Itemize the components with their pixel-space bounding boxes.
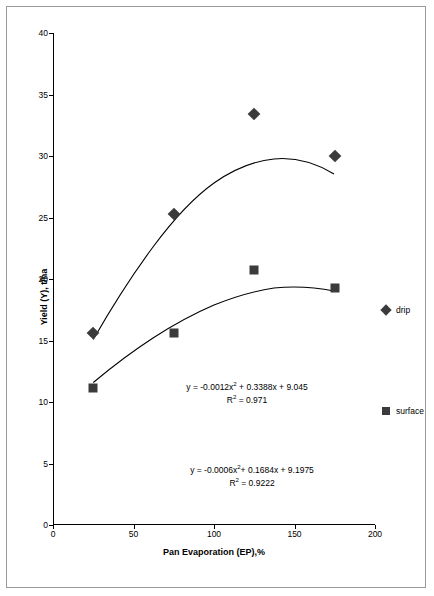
chart-page: Yield (Y), t/ha Pan Evaporation (EP),% 0… [0, 0, 434, 596]
plot-area: 0 5 10 15 20 25 30 35 40 0 50 100 15 [53, 33, 375, 525]
y-tick-label-40: 40 [39, 28, 48, 38]
y-tick-label-10: 10 [39, 397, 48, 407]
y-tick-label-20: 20 [39, 274, 48, 284]
data-point-surface-2 [169, 329, 178, 338]
drip-equation-annotation: y = -0.0012x2 + 0.3388x + 9.045 R2 = 0.9… [186, 380, 307, 406]
y-tick-label-0: 0 [43, 520, 48, 530]
data-point-surface-4 [330, 283, 339, 292]
legend-item-surface: surface [382, 406, 424, 416]
x-tick-label-100: 100 [207, 529, 221, 539]
x-tick-label-50: 50 [129, 529, 138, 539]
x-tick-label-200: 200 [368, 529, 382, 539]
drip-equation-text: y = -0.0012x2 + 0.3388x + 9.045 [186, 382, 307, 392]
data-point-surface-1 [89, 384, 98, 393]
y-tick-label-35: 35 [39, 90, 48, 100]
y-tick-label-5: 5 [43, 459, 48, 469]
y-tick-label-15: 15 [39, 336, 48, 346]
y-tick-label-25: 25 [39, 213, 48, 223]
surface-r2-text: R2 = 0.9222 [190, 476, 314, 489]
surface-trendline [93, 287, 334, 383]
square-marker-icon [382, 407, 390, 415]
drip-trendline [93, 159, 334, 340]
diamond-marker-icon [380, 304, 391, 315]
x-tick-label-0: 0 [51, 529, 56, 539]
legend-label-surface: surface [396, 406, 424, 416]
data-point-surface-3 [250, 266, 259, 275]
x-tick-label-150: 150 [287, 529, 301, 539]
drip-r2-text: R2 = 0.971 [186, 393, 307, 406]
surface-equation-text: y = -0.0006x2+ 0.1684x + 9.1975 [190, 465, 314, 475]
surface-equation-annotation: y = -0.0006x2+ 0.1684x + 9.1975 R2 = 0.9… [190, 463, 314, 489]
trend-curves [53, 33, 375, 525]
y-tick-label-30: 30 [39, 151, 48, 161]
x-axis-label: Pan Evaporation (EP),% [53, 547, 375, 557]
chart-frame: Yield (Y), t/ha Pan Evaporation (EP),% 0… [6, 6, 426, 588]
legend-item-drip: drip [382, 305, 410, 315]
legend-label-drip: drip [396, 305, 410, 315]
